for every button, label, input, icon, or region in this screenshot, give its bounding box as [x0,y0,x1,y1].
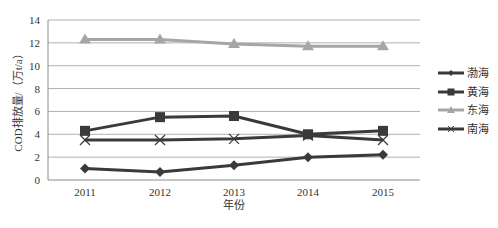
legend: 渤海黄海东海南海 [438,66,489,135]
legend-label: 黄海 [467,85,489,98]
legend-label: 东海 [467,103,489,116]
diamond-marker [155,167,165,177]
y-tick-label: 2 [35,151,41,163]
square-marker [229,111,239,121]
data-series [79,33,389,177]
y-axis-title: COD排放量/（万t/a） [11,48,24,151]
legend-label: 南海 [467,122,489,135]
legend-label: 渤海 [467,66,489,79]
legend-item: 南海 [438,122,489,135]
y-tick-label: 4 [35,128,41,140]
diamond-marker [378,150,388,160]
x-axis-ticks: 20112012201320142015 [74,186,394,198]
legend-item: 东海 [438,103,489,116]
legend-item: 渤海 [438,66,489,79]
square-marker [155,112,165,122]
line-chart: 02468101214 20112012201320142015 年份 COD排… [0,0,498,228]
legend-item: 黄海 [438,85,489,98]
y-tick-label: 6 [35,105,41,117]
square-marker [378,126,388,136]
y-axis-ticks: 02468101214 [29,14,41,186]
x-axis-title: 年份 [223,198,245,211]
y-tick-label: 0 [35,174,41,186]
x-tick-label: 2014 [297,186,320,198]
diamond-marker [229,160,239,170]
series-东海 [79,33,389,50]
x-tick-label: 2011 [74,186,96,198]
x-tick-label: 2015 [372,186,395,198]
y-tick-label: 8 [35,83,41,95]
series-黄海 [80,111,388,139]
square-marker [80,126,90,136]
diamond-marker [303,152,313,162]
series-渤海 [80,150,388,177]
x-tick-label: 2012 [149,186,171,198]
y-tick-label: 14 [29,14,41,26]
diamond-marker [80,164,90,174]
y-tick-label: 10 [29,60,41,72]
y-tick-label: 12 [29,37,40,49]
x-tick-label: 2013 [223,186,246,198]
